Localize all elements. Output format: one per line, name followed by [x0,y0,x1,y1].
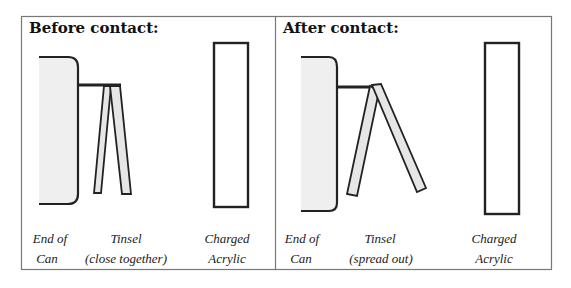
tinsel-electroscope-diagram: Before contact: End of Can Tinsel (close… [0,0,571,288]
panel-after: After contact: End of Can Tinsel (spread… [282,19,519,266]
charged-acrylic-rod [214,43,248,207]
tinsel-strip-left [347,86,379,196]
tinsel-strip-right [372,84,426,192]
can-body [301,57,337,211]
label-can-line1: End of [284,231,322,246]
label-acrylic-line2: Acrylic [207,251,246,266]
label-tinsel-line1: Tinsel [364,231,395,246]
panel-title: Before contact: [29,19,159,37]
label-tinsel-line2: (close together) [85,251,167,266]
panel-before: Before contact: End of Can Tinsel (close… [29,19,250,266]
label-tinsel-line1: Tinsel [110,231,141,246]
tinsel-strip-left [94,86,111,193]
label-can-line2: Can [290,251,312,266]
label-tinsel-line2: (spread out) [349,251,412,266]
label-can-line2: Can [36,251,58,266]
tinsel-strip-right [110,86,131,194]
label-acrylic-line1: Charged [471,231,517,246]
label-acrylic-line1: Charged [204,231,250,246]
label-acrylic-line2: Acrylic [474,251,513,266]
panel-title: After contact: [282,19,399,37]
charged-acrylic-rod [485,43,519,214]
can-body [39,57,78,204]
label-can-line1: End of [32,231,70,246]
